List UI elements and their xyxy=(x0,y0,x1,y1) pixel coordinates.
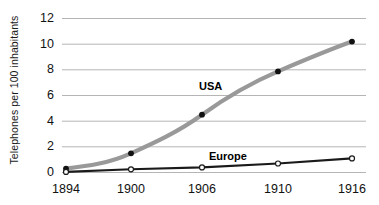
datapoint-europe-1894 xyxy=(64,169,69,174)
datapoint-europe-1910 xyxy=(276,161,281,166)
line-chart: Telephones per 100 inhabitants 12 10 8 6… xyxy=(0,0,379,205)
datapoint-usa-1910 xyxy=(275,69,281,75)
datapoint-europe-1900 xyxy=(129,167,134,172)
datapoint-usa-1916 xyxy=(349,39,355,45)
series-annotation-europe: Europe xyxy=(209,150,247,162)
y-tick-label-4: 4 xyxy=(30,114,54,128)
y-tick-label-6: 6 xyxy=(30,88,54,102)
chart-plot-area xyxy=(0,0,379,205)
datapoint-europe-1906 xyxy=(200,165,205,170)
y-tick-label-12: 12 xyxy=(30,11,54,25)
y-tick-label-8: 8 xyxy=(30,62,54,76)
x-tick-label-1906: 1906 xyxy=(180,182,224,196)
y-tick-label-2: 2 xyxy=(30,139,54,153)
x-tick-label-1900: 1900 xyxy=(109,182,153,196)
x-tick-label-1894: 1894 xyxy=(44,182,88,196)
x-tick-label-1916: 1916 xyxy=(330,182,374,196)
datapoint-europe-1916 xyxy=(350,156,355,161)
series-annotation-usa: USA xyxy=(199,80,222,92)
datapoint-usa-1900 xyxy=(128,150,134,156)
datapoint-usa-1906 xyxy=(199,112,205,118)
x-tick-label-1910: 1910 xyxy=(256,182,300,196)
y-tick-label-0: 0 xyxy=(30,165,54,179)
y-tick-label-10: 10 xyxy=(30,37,54,51)
